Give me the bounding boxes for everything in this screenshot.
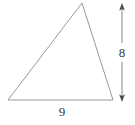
height-dimension-label: 8 bbox=[113, 46, 131, 59]
triangle-shape bbox=[8, 3, 113, 100]
geometry-figure: 8 9 bbox=[0, 0, 135, 125]
base-dimension-label: 9 bbox=[52, 105, 72, 118]
